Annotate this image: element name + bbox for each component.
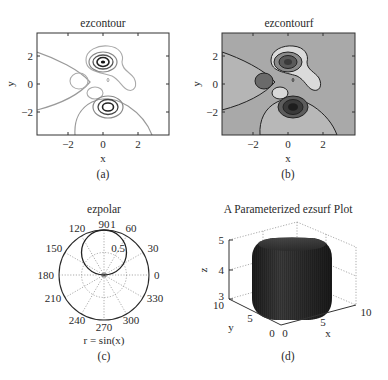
ytick-b-neg2: −2 [206,106,218,118]
xtick-a-neg2: −2 [62,138,74,150]
ytick-a-neg2: −2 [21,106,33,118]
caption-c: (c) [98,350,111,363]
polar-angle-60: 60 [126,222,138,234]
polar-angle-0: 0 [154,269,160,281]
polar-angle-150: 150 [46,242,63,254]
polar-angle-180: 180 [38,269,55,281]
polar-angle-210: 210 [45,292,62,304]
xtick-a-2: 2 [135,138,141,150]
polar-r-0.5: 0.5 [111,242,125,254]
caption-d: (d) [281,350,295,363]
xlabel-c: r = sin(x) [83,334,124,347]
xtick-b-2: 2 [320,138,326,150]
polar-angle-300: 300 [123,314,140,326]
caption-b: (b) [281,168,295,181]
figure-canvas: ezcontour [0,0,388,380]
surface-barrel [252,237,332,320]
xtick-b-neg2: −2 [247,138,259,150]
xlabel-d: x [325,327,331,339]
ytick-10: 10 [213,299,225,311]
axes-box-a [37,33,169,135]
filled-contours [222,33,355,135]
xtick-10: 10 [361,306,373,318]
polar-angle-270: 270 [96,321,113,333]
ticks-a [37,33,169,135]
ytick-a-0: 0 [28,78,34,90]
panel-a-title: ezcontour [80,17,126,29]
panel-c-ezpolar: ezpolar 90 60 30 0 330 300 270 240 210 1… [38,203,164,363]
xlabel-b: x [285,152,291,164]
polar-angle-90: 90 [99,218,111,230]
xtick-a-0: 0 [100,138,106,150]
polar-angle-30: 30 [148,242,160,254]
panel-b-ezcontourf: ezcontourf [190,17,355,181]
xlabel-a: x [100,152,106,164]
ytick-0: 0 [269,327,275,339]
polar-angle-240: 240 [69,314,86,326]
panel-a-ezcontour: ezcontour [4,17,169,181]
ztick-4: 4 [219,264,225,276]
panel-b-title: ezcontourf [264,17,313,29]
ytick-b-0: 0 [213,78,219,90]
ylabel-d: y [228,321,234,333]
ytick-b-2: 2 [213,50,219,62]
panel-d-ezsurf: A Parameterized ezsurf Plot [197,203,372,363]
polar-r-1: 1 [110,218,116,230]
xtick-0: 0 [282,327,288,339]
ytick-a-2: 2 [28,50,34,62]
panel-d-title: A Parameterized ezsurf Plot [224,203,353,215]
ytick-5: 5 [247,312,253,324]
polar-angle-330: 330 [147,292,164,304]
zlabel-d: z [197,267,209,272]
ylabel-b: y [190,81,202,87]
panel-c-title: ezpolar [87,203,121,216]
contour-lines [37,46,152,135]
polar-angle-120: 120 [69,222,86,234]
ztick-5: 5 [219,234,225,246]
ylabel-a: y [4,81,16,87]
caption-a: (a) [97,168,110,181]
xtick-b-0: 0 [285,138,291,150]
